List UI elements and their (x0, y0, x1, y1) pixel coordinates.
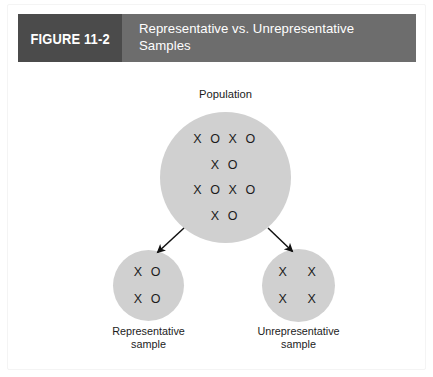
population-label: Population (160, 88, 291, 100)
population-mark-row: X O X O (193, 184, 258, 197)
caption-line: sample (236, 338, 361, 351)
unrepresentative-sample-caption: Unrepresentative sample (236, 325, 361, 351)
population-mark-row: X O X O (193, 133, 258, 146)
caption-line: Representative (88, 325, 209, 338)
representative-sample-circle: X O X O (113, 250, 184, 321)
unrepresentative-sample-circle: X X X X (262, 249, 335, 322)
caption-line: sample (88, 338, 209, 351)
population-marks: X O X O X O X O X O X O (160, 112, 291, 243)
sample-mark-row: X O (134, 293, 163, 306)
population-circle: X O X O X O X O X O X O (160, 112, 291, 243)
figure-diagram: Population X O X O X O X O X O X O X O X… (0, 0, 433, 377)
unrepresentative-sample-marks: X X X X (262, 249, 335, 322)
representative-sample-caption: Representative sample (88, 325, 209, 351)
representative-sample-marks: X O X O (113, 250, 184, 321)
population-mark-row: X O (211, 159, 240, 172)
sample-mark-row: X X (278, 293, 318, 306)
caption-line: Unrepresentative (236, 325, 361, 338)
sample-mark-row: X X (278, 266, 318, 279)
population-mark-row: X O (211, 210, 240, 223)
sample-mark-row: X O (134, 266, 163, 279)
